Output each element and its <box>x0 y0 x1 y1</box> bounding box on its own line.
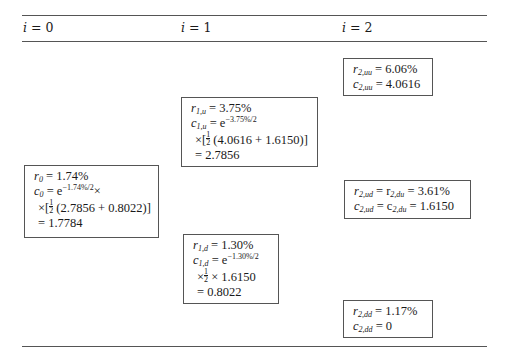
value-line: c2,uu = 4.0616 <box>353 77 425 92</box>
node-1-d: r1,d = 1.30% c1,d = e−1.30%/2 ×12 × 1.61… <box>183 234 279 304</box>
value-line: c0 = e−1.74%/2× <box>34 184 151 199</box>
discount-line: ×[12 (2.7856 + 0.8022)] <box>34 199 151 216</box>
rate-line: r1,u = 3.75% <box>191 101 310 116</box>
result-line: = 2.7856 <box>191 148 310 163</box>
discount-line: ×[12 (4.0616 + 1.6150)] <box>191 131 310 148</box>
value-line: c2,ud = c2,du = 1.6150 <box>354 199 463 214</box>
rate-line: r2,uu = 6.06% <box>353 62 425 77</box>
node-0: r0 = 1.74% c0 = e−1.74%/2× ×[12 (2.7856 … <box>24 165 159 238</box>
result-line: = 0.8022 <box>193 285 271 300</box>
value-line: c1,u = e−3.75%/2 <box>191 116 310 131</box>
header-col-1: i = 1 <box>181 20 211 35</box>
header-rule <box>22 41 487 42</box>
rate-line: r2,dd = 1.17% <box>353 304 425 319</box>
header-col-2: i = 2 <box>342 20 372 35</box>
rate-line: r2,ud = r2,du = 3.61% <box>354 184 463 199</box>
header-col-0: i = 0 <box>23 20 53 35</box>
node-2-ud: r2,ud = r2,du = 3.61% c2,ud = c2,du = 1.… <box>344 180 471 219</box>
discount-line: ×12 × 1.6150 <box>193 268 271 285</box>
node-2-dd: r2,dd = 1.17% c2,dd = 0 <box>343 300 433 338</box>
value-line: c1,d = e−1.30%/2 <box>193 253 271 268</box>
top-rule <box>22 15 487 16</box>
result-line: = 1.7784 <box>34 216 151 231</box>
value-line: c2,dd = 0 <box>353 319 425 334</box>
node-2-uu: r2,uu = 6.06% c2,uu = 4.0616 <box>343 58 433 96</box>
rate-line: r1,d = 1.30% <box>193 238 271 253</box>
bottom-rule <box>22 346 487 347</box>
node-1-u: r1,u = 3.75% c1,u = e−3.75%/2 ×[12 (4.06… <box>181 97 318 167</box>
rate-line: r0 = 1.74% <box>34 169 151 184</box>
